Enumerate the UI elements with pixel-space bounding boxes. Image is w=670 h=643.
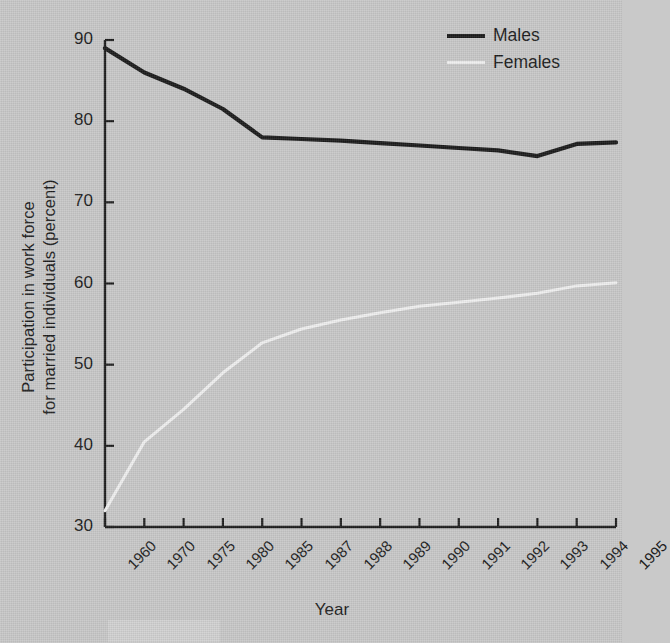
y-axis-title-line1: Participation in work force (18, 62, 39, 532)
series-line-females (105, 283, 616, 511)
x-axis-title-text: Year (315, 600, 349, 619)
legend-swatch-males (447, 34, 485, 38)
y-tick-label: 70 (47, 191, 93, 211)
y-tick-label: 40 (47, 435, 93, 455)
legend-item-males: Males (447, 22, 560, 49)
y-tick-label: 90 (47, 29, 93, 49)
y-axis-title-line2: for married individuals (percent) (39, 62, 60, 532)
legend-item-females: Females (447, 49, 560, 76)
y-tick-marks (105, 40, 114, 527)
chart-legend: Males Females (447, 22, 560, 76)
y-tick-label: 50 (47, 354, 93, 374)
legend-label-females: Females (493, 54, 560, 72)
y-axis-title: Participation in work force for married … (18, 62, 60, 532)
axis-lines (105, 40, 616, 527)
y-tick-label: 80 (47, 110, 93, 130)
x-tick-label: 1995 (635, 537, 670, 573)
y-tick-label: 30 (47, 516, 93, 536)
y-tick-label: 60 (47, 273, 93, 293)
legend-label-males: Males (493, 27, 540, 45)
x-axis-title: Year (0, 600, 622, 620)
legend-swatch-females (447, 61, 485, 64)
data-series-lines (105, 48, 616, 511)
x-tick-marks (105, 518, 616, 527)
